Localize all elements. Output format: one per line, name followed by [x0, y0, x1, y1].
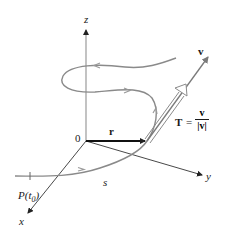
y-axis-label: y	[206, 171, 211, 182]
velocity-vector-label: v	[198, 46, 204, 57]
arc-length-label: s	[103, 177, 107, 188]
curve-direction-arrow-icon	[153, 108, 157, 114]
space-curve	[15, 58, 176, 176]
tangent-label: T	[175, 117, 182, 128]
position-vector-label: r	[109, 126, 114, 137]
start-point-label: P(t0)	[18, 190, 39, 204]
tangent-fraction: v |v|	[195, 108, 209, 131]
origin-label: 0	[75, 133, 81, 144]
y-axis	[86, 141, 202, 175]
tangent-denominator: |v|	[197, 120, 206, 131]
z-axis-label: z	[84, 14, 88, 25]
tangent-equals: =	[186, 117, 192, 128]
x-axis-label: x	[19, 216, 24, 227]
tangent-numerator: v	[200, 108, 205, 119]
curve-direction-arrow-icon	[78, 168, 84, 172]
